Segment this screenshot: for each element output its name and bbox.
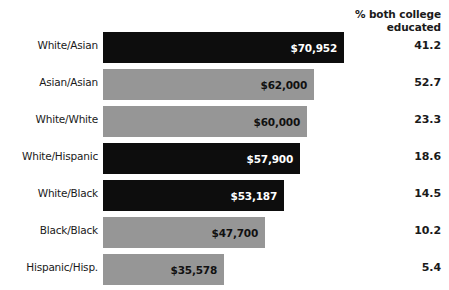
bar-value-label: $60,000 — [254, 116, 300, 128]
category-label: White/Asian — [0, 39, 98, 51]
bar: $57,900 — [103, 143, 300, 174]
bar-chart: % both college educated White/Asian$70,9… — [0, 0, 449, 290]
bar-value-label: $35,578 — [171, 264, 217, 276]
pct-value: 41.2 — [321, 39, 441, 52]
bar: $47,700 — [103, 217, 265, 248]
chart-row: Asian/Asian$62,00052.7 — [0, 67, 449, 104]
bar: $70,952 — [103, 32, 344, 63]
category-label: White/White — [0, 113, 98, 125]
category-label: White/Hispanic — [0, 150, 98, 162]
bar-track: $35,578 — [103, 254, 343, 285]
bar-track: $62,000 — [103, 69, 343, 100]
bar: $35,578 — [103, 254, 224, 285]
pct-value: 52.7 — [321, 76, 441, 89]
bar-track: $70,952 — [103, 32, 343, 63]
bar-value-label: $53,187 — [231, 190, 277, 202]
chart-row: White/White$60,00023.3 — [0, 104, 449, 141]
category-label: Hispanic/Hisp. — [0, 261, 98, 273]
pct-value: 23.3 — [321, 113, 441, 126]
chart-row: White/Hispanic$57,90018.6 — [0, 141, 449, 178]
bar: $62,000 — [103, 69, 314, 100]
pct-value: 18.6 — [321, 150, 441, 163]
pct-value: 5.4 — [321, 261, 441, 274]
pct-value: 14.5 — [321, 187, 441, 200]
pct-value: 10.2 — [321, 224, 441, 237]
chart-row: Hispanic/Hisp.$35,5785.4 — [0, 252, 449, 289]
bar-track: $53,187 — [103, 180, 343, 211]
category-label: White/Black — [0, 187, 98, 199]
bar-track: $57,900 — [103, 143, 343, 174]
pct-column-header-line1: % both college — [311, 8, 441, 21]
bar-track: $60,000 — [103, 106, 343, 137]
bar-value-label: $47,700 — [212, 227, 258, 239]
chart-row: White/Asian$70,95241.2 — [0, 30, 449, 67]
bar-value-label: $57,900 — [247, 153, 293, 165]
bar-track: $47,700 — [103, 217, 343, 248]
chart-row: Black/Black$47,70010.2 — [0, 215, 449, 252]
category-label: Black/Black — [0, 224, 98, 236]
bar: $60,000 — [103, 106, 307, 137]
bar: $53,187 — [103, 180, 284, 211]
category-label: Asian/Asian — [0, 76, 98, 88]
chart-rows: White/Asian$70,95241.2Asian/Asian$62,000… — [0, 30, 449, 289]
chart-row: White/Black$53,18714.5 — [0, 178, 449, 215]
bar-value-label: $62,000 — [261, 79, 307, 91]
